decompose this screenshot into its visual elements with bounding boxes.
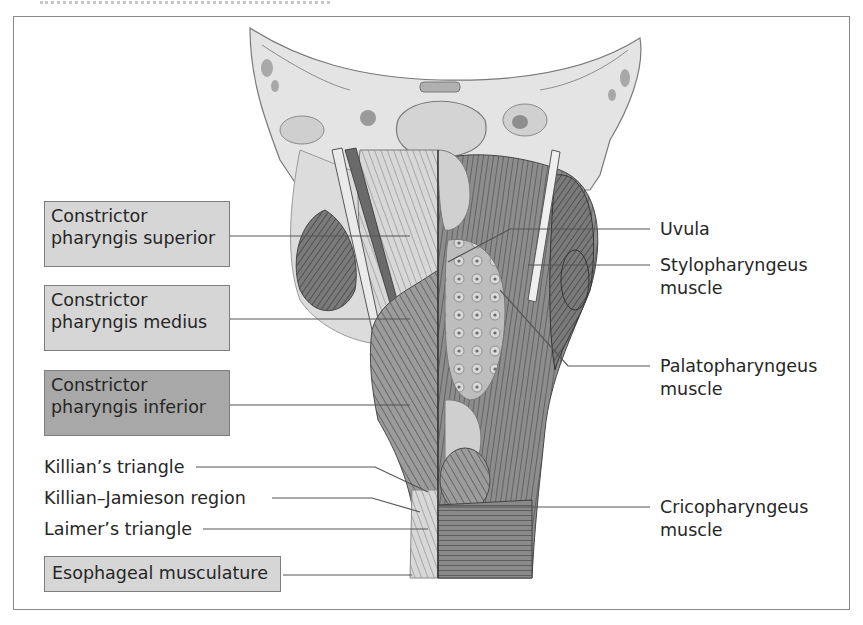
label-constrictor-pharyngis-superior: Constrictor pharyngis superior xyxy=(44,201,230,267)
label-line: muscle xyxy=(660,378,817,401)
label-constrictor-pharyngis-inferior: Constrictor pharyngis inferior xyxy=(44,370,230,436)
label-laimers-triangle: Laimer’s triangle xyxy=(44,518,192,540)
label-esophageal-musculature: Esophageal musculature xyxy=(44,556,281,592)
label-line: pharyngis medius xyxy=(51,311,223,333)
label-palatopharyngeus-muscle: Palatopharyngeus muscle xyxy=(660,355,817,401)
label-line: Stylopharyngeus xyxy=(660,254,808,277)
label-line: pharyngis inferior xyxy=(51,396,223,418)
label-line: pharyngis superior xyxy=(51,227,223,249)
label-line: muscle xyxy=(660,519,808,542)
label-killians-triangle: Killian’s triangle xyxy=(44,456,184,478)
label-stylopharyngeus-muscle: Stylopharyngeus muscle xyxy=(660,254,808,300)
label-uvula: Uvula xyxy=(660,218,710,241)
label-cricopharyngeus-muscle: Cricopharyngeus muscle xyxy=(660,496,808,542)
label-killian-jamieson-region: Killian–Jamieson region xyxy=(44,487,246,509)
label-line: Constrictor xyxy=(51,374,223,396)
label-line: Cricopharyngeus xyxy=(660,496,808,519)
label-line: Constrictor xyxy=(51,289,223,311)
label-constrictor-pharyngis-medius: Constrictor pharyngis medius xyxy=(44,285,230,351)
label-line: Palatopharyngeus xyxy=(660,355,817,378)
label-line: Constrictor xyxy=(51,205,223,227)
label-line: muscle xyxy=(660,277,808,300)
